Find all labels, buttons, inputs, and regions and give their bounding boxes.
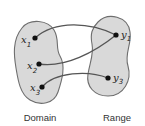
point-y3-dot (105, 75, 110, 80)
function-mapping-diagram: x1 x2 x3 y1 y3 Domain Range (0, 0, 145, 126)
point-x1-dot (32, 35, 37, 40)
range-caption: Range (103, 112, 131, 123)
domain-caption: Domain (24, 112, 57, 123)
point-x3-dot (39, 84, 44, 89)
point-y1-dot (113, 32, 118, 37)
point-x2-dot (36, 61, 41, 66)
